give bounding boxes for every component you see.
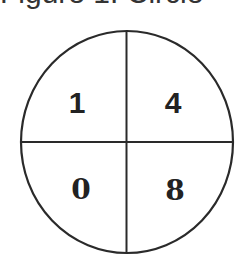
quadrant-top-left-number: 1 — [69, 86, 86, 119]
quadrant-circle-diagram: 1 4 0 8 — [0, 0, 250, 259]
quadrant-bottom-left-number: 0 — [71, 173, 90, 206]
quadrant-top-right-number: 4 — [165, 86, 182, 119]
quadrant-bottom-right-number: 8 — [165, 174, 184, 207]
